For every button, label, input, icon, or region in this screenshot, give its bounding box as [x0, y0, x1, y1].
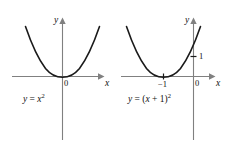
origin-label: 0 [64, 79, 68, 88]
parabola-curve [127, 27, 201, 78]
y-axis-label: y [185, 16, 189, 26]
origin-label: 0 [195, 79, 199, 88]
chart-panel-left: y x 0 y = x2 [0, 0, 116, 151]
equation-close-paren: + 1) [152, 94, 168, 104]
x-axis-label: x [216, 79, 220, 89]
x-axis-label: x [105, 79, 109, 89]
equation-base: x [146, 94, 150, 104]
y-axis-label: y [54, 16, 58, 26]
equation-exponent: 2 [42, 92, 45, 99]
y-tick-label-one: 1 [199, 52, 203, 61]
equation-lhs: y [128, 94, 132, 104]
y-axis-arrowhead [59, 18, 65, 25]
figure-parabola-translation: y x 0 y = x2 y x 0 −1 1 y [0, 0, 232, 151]
x-tick-label-minus-one: −1 [158, 80, 167, 89]
x-axis-arrowhead [98, 73, 105, 79]
equation-label-left: y = x2 [23, 95, 45, 105]
equation-exponent: 2 [168, 92, 171, 99]
chart-svg-right [116, 0, 232, 151]
equation-label-right: y = (x + 1)2 [128, 95, 171, 105]
equation-equals: = [30, 94, 35, 104]
y-axis-arrowhead [190, 18, 196, 25]
chart-panel-right: y x 0 −1 1 y = (x + 1)2 [116, 0, 232, 151]
equation-equals: = [135, 94, 140, 104]
equation-lhs: y [23, 94, 27, 104]
x-axis-arrowhead [209, 73, 216, 79]
